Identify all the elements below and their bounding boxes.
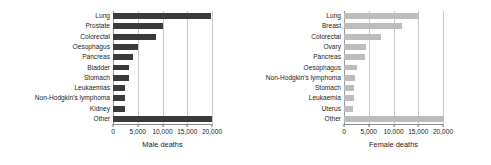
category-label: Kidney [90, 105, 110, 112]
bar [113, 95, 125, 101]
gridline [163, 11, 164, 124]
category-label: Lung [95, 13, 110, 20]
bar [344, 75, 355, 81]
bar [113, 116, 212, 122]
tick-label: 20,000 [433, 129, 453, 136]
tick-mark [418, 124, 419, 127]
bar [113, 106, 125, 112]
tick-label: 10,000 [152, 129, 172, 136]
bar [113, 44, 138, 50]
category-label: Pancreas [82, 54, 110, 61]
tick-label: 0 [111, 129, 115, 136]
category-label: Breast [322, 23, 341, 30]
category-labels-female: LungBreastColorectalOvaryPancreasOesopha… [246, 11, 341, 124]
gridline [418, 11, 419, 124]
figure-two-panel-bar-charts: LungProstateColorectalOesophagusPancreas… [0, 0, 491, 165]
tick-label: 0 [342, 129, 346, 136]
gridline [212, 11, 213, 124]
panel-male-deaths: LungProstateColorectalOesophagusPancreas… [0, 0, 245, 165]
tick-label: 20,000 [202, 129, 222, 136]
bar [344, 116, 444, 122]
tick-mark [344, 124, 345, 127]
plot-area-male [113, 11, 212, 124]
bar [113, 13, 211, 19]
category-label: Leukaemia [309, 95, 341, 102]
category-label: Colorectal [80, 33, 110, 40]
bar [344, 106, 353, 112]
x-axis-title-male: Male deaths [113, 141, 212, 148]
tick-mark [162, 124, 163, 127]
bar [344, 95, 354, 101]
x-axis-title-female: Female deaths [344, 141, 443, 148]
tick-label: 5,000 [129, 129, 146, 136]
bar [113, 23, 163, 29]
bar [344, 13, 419, 19]
bar [113, 75, 129, 81]
bar [113, 54, 133, 60]
tick-mark [187, 124, 188, 127]
category-label: Oesophagus [304, 64, 341, 71]
category-label: Leukaemias [74, 85, 110, 92]
gridline [187, 11, 188, 124]
bar [113, 65, 129, 71]
bar [344, 34, 381, 40]
tick-label: 10,000 [383, 129, 403, 136]
category-label: Stomach [84, 74, 110, 81]
category-label: Other [325, 116, 342, 123]
tick-mark [443, 124, 444, 127]
bar [113, 34, 156, 40]
tick-label: 15,000 [177, 129, 197, 136]
category-label: Non-Hodgkin's lymphoma [266, 74, 341, 81]
category-label: Stomach [315, 85, 341, 92]
category-label: Colorectal [311, 33, 341, 40]
plot-area-female [344, 11, 443, 124]
tick-mark [368, 124, 369, 127]
gridline [443, 11, 444, 124]
category-label: Other [94, 116, 111, 123]
bar [344, 23, 402, 29]
tick-label: 15,000 [408, 129, 428, 136]
bar [344, 85, 354, 91]
tick-mark [113, 124, 114, 127]
category-label: Ovary [323, 44, 341, 51]
tick-mark [212, 124, 213, 127]
panel-female-deaths: LungBreastColorectalOvaryPancreasOesopha… [246, 0, 491, 165]
bar [344, 54, 365, 60]
category-label: Pancreas [313, 54, 341, 61]
category-label: Non-Hodgkin's lymphoma [35, 95, 110, 102]
category-label: Uterus [322, 105, 341, 112]
tick-mark [393, 124, 394, 127]
bar [344, 65, 357, 71]
tick-mark [137, 124, 138, 127]
category-labels-male: LungProstateColorectalOesophagusPancreas… [0, 11, 110, 124]
bar [113, 85, 125, 91]
tick-label: 5,000 [360, 129, 377, 136]
bar [344, 44, 366, 50]
category-label: Oesophagus [73, 44, 110, 51]
category-label: Lung [326, 13, 341, 20]
category-label: Bladder [87, 64, 110, 71]
category-label: Prostate [85, 23, 110, 30]
